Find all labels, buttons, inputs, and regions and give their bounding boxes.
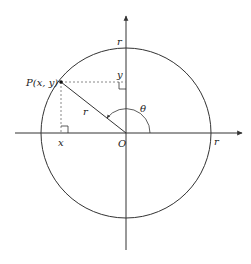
radius-segment-label: r xyxy=(83,106,89,117)
point-p xyxy=(59,80,63,84)
radius-segment xyxy=(61,82,126,133)
point-label: P(x, y) xyxy=(25,77,58,88)
origin-label: O xyxy=(118,138,126,149)
angle-label: θ xyxy=(140,103,146,114)
x-foot-label: x xyxy=(58,137,64,148)
radius-right-label: r xyxy=(214,136,220,147)
radius-top-label: r xyxy=(117,36,123,47)
y-foot-label: y xyxy=(116,69,123,80)
polar-coordinate-diagram: P(x, y) y x O r r r θ xyxy=(0,0,251,264)
right-angle-marker-y xyxy=(119,82,126,89)
right-angle-marker-x xyxy=(61,126,68,133)
